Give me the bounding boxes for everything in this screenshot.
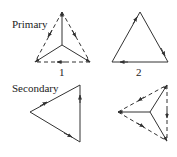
arrow-bottom-edge	[64, 133, 72, 137]
arrow-top-edge	[40, 102, 47, 106]
figure-2-delta	[112, 12, 168, 62]
arrow-right-edge	[161, 48, 165, 56]
arrow-left-edge	[48, 30, 52, 37]
arrow-bottom-edge	[137, 123, 144, 127]
arrow-top-edge	[138, 97, 144, 101]
secondary-label: Secondary	[12, 82, 59, 94]
wye-leg-c	[150, 112, 167, 141]
wye-leg-b	[35, 45, 62, 62]
figure-2-number: 2	[136, 66, 142, 78]
wye-leg-b	[150, 85, 167, 112]
figure-4-secondary-wye-delta	[118, 85, 167, 141]
primary-label: Primary	[12, 18, 48, 30]
delta-triangle	[112, 12, 168, 62]
figure-1-number: 1	[59, 66, 65, 78]
arrow-right-edge	[72, 30, 76, 37]
wye-leg-c	[62, 45, 90, 62]
phasor-diagram: Primary Secondary 1 2	[0, 0, 177, 157]
arrow-left-edge	[133, 17, 137, 24]
